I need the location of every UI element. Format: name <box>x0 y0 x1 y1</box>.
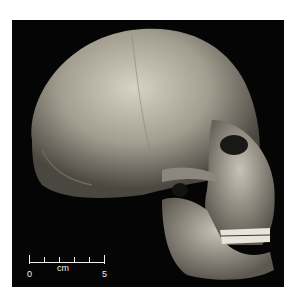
scale-tick <box>104 255 105 264</box>
scale-unit-label: cm <box>57 263 69 273</box>
skull-image <box>12 20 284 287</box>
scale-bar: cm 0 5 <box>27 252 117 282</box>
scale-tick <box>44 257 45 263</box>
scale-tick <box>89 257 90 263</box>
scale-tick <box>74 257 75 263</box>
scale-start-label: 0 <box>27 269 32 279</box>
scale-tick <box>29 255 30 264</box>
scale-end-label: 5 <box>102 269 107 279</box>
skull-photo: cm 0 5 <box>12 20 284 287</box>
